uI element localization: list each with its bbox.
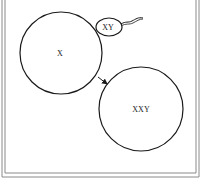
diagram-canvas: X XY XXY [0, 0, 201, 182]
sperm-cell: XY [96, 18, 143, 36]
fertilization-diagram: X XY XXY [0, 0, 201, 182]
zygote-label: XXY [132, 105, 150, 114]
sperm-label: XY [102, 23, 114, 32]
zygote-cell: XXY [99, 67, 183, 151]
egg-label: X [57, 49, 63, 58]
egg-cell: X [20, 12, 102, 94]
fertilization-arrow [98, 77, 107, 84]
